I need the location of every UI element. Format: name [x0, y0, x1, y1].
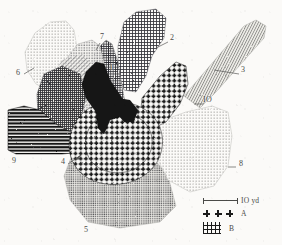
legend: IO yd A B [203, 196, 278, 240]
map-label-8: 8 [239, 160, 243, 168]
plus-cross-icon [215, 210, 222, 217]
map-label-9: 9 [12, 157, 16, 165]
map-label-3: 3 [241, 66, 245, 74]
legend-row-a: A [203, 209, 246, 218]
legend-scale-row: IO yd [203, 196, 259, 205]
map-label-5: 5 [84, 226, 88, 234]
scale-bar-tick-right [237, 198, 238, 204]
plus-cross-icon [226, 210, 233, 217]
legend-label-b: B [229, 224, 234, 233]
region-3-upper-right-striped-arm [184, 20, 266, 108]
legend-swatch-square-grid [203, 222, 221, 234]
map-label-6: 6 [16, 69, 20, 77]
legend-row-b: B [203, 222, 234, 234]
map-label-2: 2 [170, 34, 174, 42]
map-label-4: 4 [61, 158, 65, 166]
legend-swatch-plus-crosses [203, 210, 233, 218]
scale-bar-line [203, 200, 238, 201]
plus-cross-icon [203, 210, 210, 217]
map-label-1: 1 [110, 64, 114, 72]
scale-bar-label: IO yd [241, 196, 259, 205]
map-label-10: IO [203, 96, 212, 104]
map-label-7: 7 [100, 33, 104, 41]
figure-canvas: 1 2 3 4 5 6 7 8 9 IO IO yd A B [0, 0, 282, 245]
legend-label-a: A [241, 209, 246, 218]
scale-bar-tick-left [203, 198, 204, 204]
scale-bar [203, 198, 238, 204]
